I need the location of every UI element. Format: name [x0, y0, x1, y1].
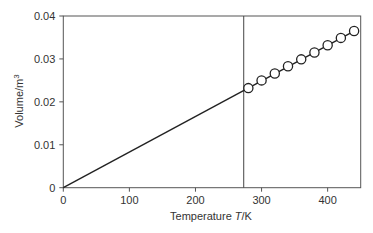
plot-border	[63, 16, 360, 188]
plot-frame	[63, 16, 360, 188]
y-axis-ticks: 00.010.020.030.04	[34, 10, 63, 194]
y-tick-label: 0.01	[34, 139, 55, 151]
x-tick-label: 400	[318, 194, 336, 206]
data-point	[349, 26, 358, 35]
data-point	[310, 48, 319, 57]
data-point	[323, 41, 332, 50]
y-tick-label: 0	[49, 182, 55, 194]
x-axis-label: Temperature T/K	[170, 210, 253, 222]
x-tick-label: 0	[60, 194, 66, 206]
y-tick-label: 0.02	[34, 96, 55, 108]
data-point	[336, 33, 345, 42]
data-point	[244, 84, 253, 93]
data-point	[257, 76, 266, 85]
data-point	[283, 62, 292, 71]
volume-temperature-chart: 0100200300400 00.010.020.030.04 Temperat…	[0, 0, 373, 233]
x-tick-label: 300	[252, 194, 270, 206]
y-tick-label: 0.04	[34, 10, 55, 22]
x-axis-ticks: 0100200300400	[60, 188, 337, 206]
x-tick-label: 200	[186, 194, 204, 206]
data-series	[63, 26, 358, 187]
y-tick-label: 0.03	[34, 53, 55, 65]
x-tick-label: 100	[120, 194, 138, 206]
y-axis-label: Volume/m3	[12, 74, 25, 128]
data-point	[270, 69, 279, 78]
data-point	[297, 55, 306, 64]
